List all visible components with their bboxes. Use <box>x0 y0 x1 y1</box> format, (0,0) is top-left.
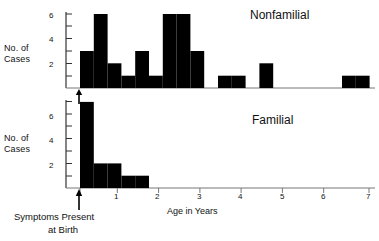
bar-familial-2 <box>108 163 122 188</box>
bar-nonfamilial-20 <box>356 76 370 88</box>
bar-nonfamilial-8 <box>190 51 204 88</box>
bar-nonfamilial-4 <box>135 51 149 88</box>
bar-familial-0 <box>80 102 94 188</box>
bar-nonfamilial-19 <box>342 76 356 88</box>
bottom-panel-bars <box>80 102 149 188</box>
symptoms-present-at-birth-arrow-bottom <box>76 189 82 210</box>
symptoms-present-at-birth-arrow-top <box>76 89 82 104</box>
bar-nonfamilial-5 <box>149 76 163 88</box>
figure-histogram-age-at-onset: No. of Cases 6 4 2 Nonfamilial No. of Ca… <box>0 0 379 241</box>
bar-nonfamilial-7 <box>177 14 191 88</box>
top-panel-bars <box>80 14 370 88</box>
bar-nonfamilial-10 <box>218 76 232 88</box>
bar-nonfamilial-2 <box>108 63 122 88</box>
bar-nonfamilial-3 <box>121 76 135 88</box>
bar-nonfamilial-1 <box>94 14 108 88</box>
chart-canvas <box>0 0 379 241</box>
bar-familial-3 <box>121 176 135 188</box>
bar-familial-1 <box>94 163 108 188</box>
bar-nonfamilial-0 <box>80 51 94 88</box>
bar-nonfamilial-13 <box>259 63 273 88</box>
bar-nonfamilial-6 <box>163 14 177 88</box>
bar-nonfamilial-11 <box>232 76 246 88</box>
bar-familial-4 <box>135 176 149 188</box>
